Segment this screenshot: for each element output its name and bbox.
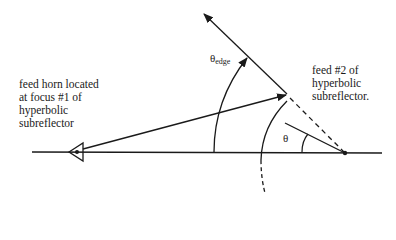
focus-2-dot xyxy=(343,151,347,155)
theta-edge-label: θedge xyxy=(210,52,230,66)
feed-horn-label-line: subreflector xyxy=(19,117,99,130)
ray-to-edge xyxy=(83,95,286,149)
theta-edge-subscript: edge xyxy=(215,57,230,66)
theta-label: θ xyxy=(283,132,288,144)
theta-ray xyxy=(285,123,345,153)
theta-arc xyxy=(302,134,308,152)
dashed-edge-line xyxy=(290,98,344,152)
feed2-label-line: hyperbolic xyxy=(312,77,369,90)
subreflector-arc xyxy=(261,101,287,160)
subreflector-arc-dashed xyxy=(261,160,265,193)
feed2-label: feed #2 of hyperbolic subreflector. xyxy=(312,64,369,103)
focus-1-dot xyxy=(75,150,79,154)
theta-edge-arc xyxy=(214,58,247,152)
feed-horn-label-line: at focus #1 of xyxy=(19,91,99,104)
feed2-label-line: feed #2 of xyxy=(312,64,369,77)
feed-horn-label-line: feed horn located xyxy=(19,78,99,91)
feed-horn-label-line: hyperbolic xyxy=(19,104,99,117)
axis-line xyxy=(32,152,382,153)
feed-horn-label: feed horn located at focus #1 of hyperbo… xyxy=(19,78,99,130)
feed2-label-line: subreflector. xyxy=(312,90,369,103)
